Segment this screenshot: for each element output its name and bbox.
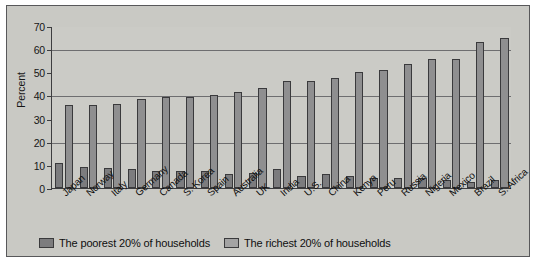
bar-richest xyxy=(65,105,73,188)
y-axis-tick-label: 10 xyxy=(11,161,45,171)
legend-item-poorest: The poorest 20% of households xyxy=(39,237,210,249)
gridline xyxy=(52,50,511,51)
bar-richest xyxy=(452,59,460,188)
y-axis-tick-label: 0 xyxy=(11,184,45,194)
gridline xyxy=(52,96,511,97)
bar-richest xyxy=(283,81,291,188)
y-axis-tick xyxy=(47,27,52,28)
bar-richest xyxy=(331,78,339,188)
y-axis-tick xyxy=(47,73,52,74)
bar-richest xyxy=(404,64,412,188)
legend-label-richest: The richest 20% of households xyxy=(244,237,391,249)
bar-richest xyxy=(137,99,145,188)
plot-area xyxy=(51,27,511,189)
chart-legend: The poorest 20% of households The riches… xyxy=(39,234,391,252)
legend-item-richest: The richest 20% of households xyxy=(224,237,391,249)
bar-richest xyxy=(355,72,363,188)
bar-richest xyxy=(500,38,508,188)
bar-richest xyxy=(476,42,484,188)
chart-panel: 010203040506070 Percent JapanNorwayItaly… xyxy=(6,5,530,257)
bar-poorest xyxy=(55,163,63,188)
x-axis-tick-labels: JapanNorwayItalyGermanyCanadaS. KoreaSpa… xyxy=(51,190,511,236)
bar-richest xyxy=(428,59,436,188)
y-axis-tick xyxy=(47,166,52,167)
legend-swatch-poorest-icon xyxy=(39,238,54,248)
bar-poorest xyxy=(273,169,281,188)
bar-richest xyxy=(379,70,387,188)
bar-poorest xyxy=(128,169,136,188)
y-axis-tick xyxy=(47,120,52,121)
bar-richest xyxy=(307,81,315,188)
legend-label-poorest: The poorest 20% of households xyxy=(59,237,210,249)
legend-swatch-richest-icon xyxy=(224,238,239,248)
y-axis-tick-label: 70 xyxy=(11,22,45,32)
y-axis-title: Percent xyxy=(15,50,27,130)
bar-richest xyxy=(89,105,97,188)
bar-richest xyxy=(234,92,242,188)
y-axis-tick-label: 20 xyxy=(11,138,45,148)
